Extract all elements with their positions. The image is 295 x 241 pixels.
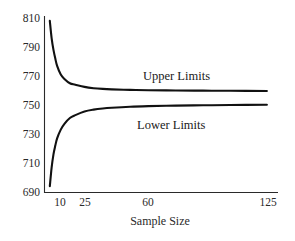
chart-figure: 810 790 770 750 730 710 690 10 25 60 125… xyxy=(0,0,295,241)
x-tick-label: 25 xyxy=(79,196,91,208)
limits-convergence-chart: 810 790 770 750 730 710 690 10 25 60 125… xyxy=(0,0,295,241)
upper-limits-label: Upper Limits xyxy=(143,69,210,83)
y-tick-label: 750 xyxy=(23,99,41,111)
x-tick-label: 125 xyxy=(259,196,277,208)
lower-limits-curve xyxy=(50,105,267,186)
y-tick-label: 790 xyxy=(23,41,41,53)
y-tick-label: 730 xyxy=(23,128,41,140)
x-tick-labels: 10 25 60 125 xyxy=(54,196,277,208)
x-tick-label: 60 xyxy=(142,196,154,208)
y-tick-labels: 810 790 770 750 730 710 690 xyxy=(23,12,41,198)
x-tick-label: 10 xyxy=(54,196,66,208)
y-tick-label: 710 xyxy=(23,157,41,169)
y-tick-label: 810 xyxy=(23,12,41,24)
y-tick-label: 690 xyxy=(23,186,41,198)
lower-limits-label: Lower Limits xyxy=(137,118,206,132)
x-axis-title: Sample Size xyxy=(130,214,190,228)
y-tick-label: 770 xyxy=(23,70,41,82)
